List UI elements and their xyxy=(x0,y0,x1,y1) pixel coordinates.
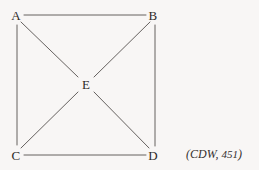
edge-a-e xyxy=(21,22,78,77)
citation-page-number: 451 xyxy=(222,148,239,160)
edge-b-e xyxy=(94,22,150,77)
node-label-a: A xyxy=(11,9,21,22)
graph-edges-canvas xyxy=(0,0,259,170)
figure-container: A B C D E (CDW, 451) xyxy=(0,0,259,170)
citation-suffix: ) xyxy=(238,147,242,161)
node-label-c: C xyxy=(12,149,21,162)
citation-prefix: (CDW, xyxy=(186,147,222,161)
node-label-d: D xyxy=(148,149,158,162)
node-label-b: B xyxy=(149,9,158,22)
node-label-e: E xyxy=(82,78,90,91)
edge-c-e xyxy=(21,92,78,148)
edge-d-e xyxy=(94,92,149,148)
citation-text: (CDW, 451) xyxy=(186,148,242,160)
